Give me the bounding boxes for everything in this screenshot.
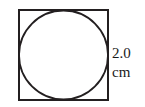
geometry-figure: 2.0 cm bbox=[0, 0, 145, 107]
dimension-value-text: 2.0 bbox=[112, 46, 145, 61]
dimension-label: 2.0 cm bbox=[112, 46, 145, 80]
inscribed-circle-shape bbox=[19, 11, 108, 100]
dimension-unit-text: cm bbox=[112, 65, 145, 80]
